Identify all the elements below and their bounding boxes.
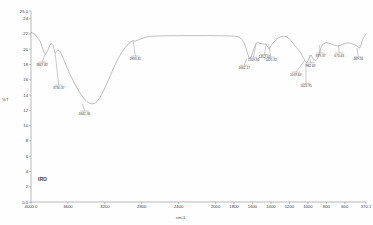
peak-leader-line <box>55 53 59 85</box>
x-tick-label: 1400 <box>266 204 276 209</box>
y-tick-label: 22 <box>23 31 28 36</box>
x-tick-label: 3600 <box>63 204 73 209</box>
peak-leader-line <box>42 55 45 63</box>
peak-label: 670.43 <box>334 54 344 58</box>
y-tick-label: 25.0 <box>20 9 29 14</box>
x-tick-label: 370.1 <box>361 204 372 209</box>
x-tick-label: 1000 <box>303 204 313 209</box>
peak-leader-line <box>244 59 247 65</box>
peak-leader-line <box>82 104 84 111</box>
peak-label: 469.56 <box>354 57 364 61</box>
y-tick-label: 18 <box>23 62 28 67</box>
peak-label: 3847.82 <box>36 63 48 67</box>
x-tick-label: 1600 <box>248 204 258 209</box>
peak-label: 1559.36 <box>248 58 260 62</box>
x-tick-label: 1200 <box>285 204 295 209</box>
y-tick-label: 16 <box>23 77 28 82</box>
peak-label: 3730.37 <box>53 86 65 90</box>
y-axis-title: %T <box>2 97 9 102</box>
y-tick-label: 24 <box>23 16 28 21</box>
y-tick-label: 4 <box>26 169 29 174</box>
y-tick-label: 12 <box>23 108 28 113</box>
x-tick-label: 4000.0 <box>25 204 38 209</box>
x-tick-label: 600 <box>341 204 349 209</box>
peak-leader-line <box>264 44 266 55</box>
spectrum-plot-svg: 0.02468101214161820222425.04000.03600320… <box>0 0 373 225</box>
peak-label: 1662.17 <box>238 66 250 70</box>
peak-label: 879.37 <box>316 54 326 58</box>
y-tick-label: 20 <box>23 47 28 52</box>
x-tick-label: 2400 <box>174 204 184 209</box>
y-tick-label: 8 <box>26 138 29 143</box>
peak-label: 3442.36 <box>79 112 91 116</box>
peak-leader-line <box>253 42 256 57</box>
peak-leader-line <box>338 46 339 53</box>
y-tick-label: 2 <box>26 184 29 189</box>
peak-label: 2893.31 <box>130 57 142 61</box>
peak-leader-line <box>357 48 359 57</box>
x-tick-label: 3200 <box>100 204 110 209</box>
spectrum-curve <box>31 32 366 103</box>
y-tick-label: 10 <box>23 123 28 128</box>
peak-label: 1037.63 <box>290 73 302 77</box>
peak-leader-line <box>296 61 305 72</box>
x-tick-label: 2000 <box>211 204 221 209</box>
x-axis-title: cm-1 <box>176 215 185 220</box>
x-tick-label: 1800 <box>229 204 239 209</box>
y-tick-label: 6 <box>26 154 29 159</box>
sample-name-label: IRO <box>38 176 47 182</box>
peak-label: 1425.32 <box>265 58 277 62</box>
x-tick-label: 800 <box>323 204 331 209</box>
ftir-spectrum-figure: 0.02468101214161820222425.04000.03600320… <box>0 0 373 225</box>
x-tick-label: 2800 <box>137 204 147 209</box>
peak-leader-line <box>133 41 135 56</box>
y-tick-label: 14 <box>23 93 28 98</box>
peak-label: 1022.95 <box>300 84 312 88</box>
peak-label: 982.69 <box>306 64 316 68</box>
